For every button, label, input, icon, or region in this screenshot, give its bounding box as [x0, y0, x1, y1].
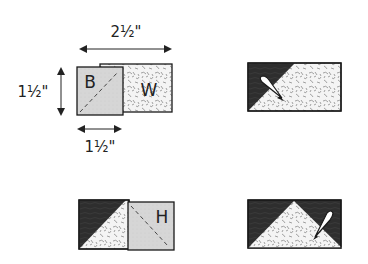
square-width-label: 1½" [85, 138, 116, 156]
square-width-arrow [77, 125, 122, 133]
step3-group: H [79, 200, 174, 250]
width-arrow [79, 45, 172, 53]
square-letter: H [156, 207, 169, 227]
step4-group [248, 200, 342, 248]
step1-group: 2½" 1½" W B 1½" [18, 23, 172, 156]
step2-group [248, 63, 341, 111]
rectangle-letter: W [141, 80, 158, 100]
height-arrow [57, 67, 65, 116]
width-label: 2½" [111, 23, 142, 41]
height-label: 1½" [18, 83, 49, 101]
quilt-diagram: 2½" 1½" W B 1½" [0, 0, 368, 264]
square-letter: B [84, 72, 96, 92]
